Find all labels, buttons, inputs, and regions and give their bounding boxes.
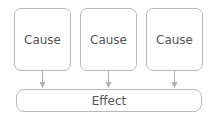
arrow-head-2-icon: [106, 82, 112, 88]
arrow-head-3-icon: [172, 82, 178, 88]
effect-box: Effect: [16, 89, 202, 112]
effect-label: Effect: [92, 94, 127, 108]
arrow-head-1-icon: [40, 82, 46, 88]
